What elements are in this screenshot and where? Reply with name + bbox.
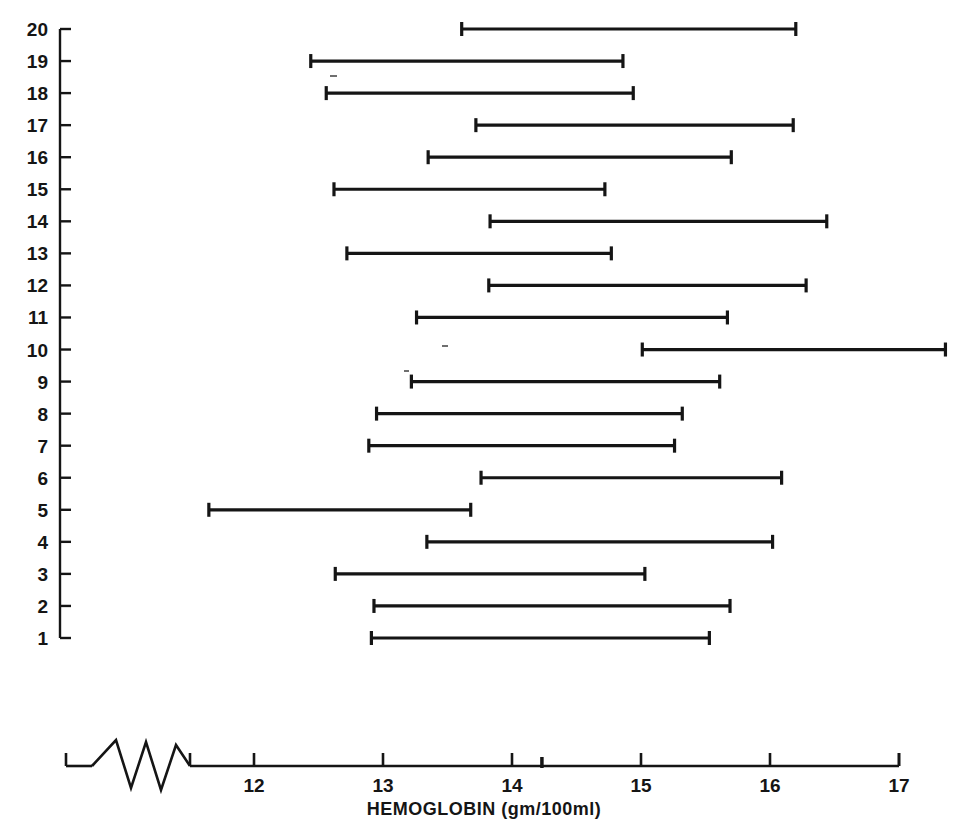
interval-bar bbox=[481, 471, 782, 485]
y-axis-tick-label: 16 bbox=[27, 147, 48, 168]
chart-canvas: 2019181716151413121110987654321 12131415… bbox=[0, 0, 968, 828]
interval-bar bbox=[489, 278, 806, 292]
x-axis-tick-label: 14 bbox=[501, 775, 523, 796]
print-speck-group bbox=[330, 75, 448, 372]
interval-bar bbox=[374, 599, 730, 613]
interval-bar bbox=[642, 343, 945, 357]
print-speck bbox=[404, 370, 409, 372]
y-axis-tick-label: 13 bbox=[27, 243, 48, 264]
axis-break-zigzag-icon bbox=[92, 740, 190, 790]
interval-bar bbox=[411, 375, 719, 389]
y-axis-tick-label: 10 bbox=[27, 340, 48, 361]
print-speck bbox=[442, 345, 448, 347]
interval-bar bbox=[428, 150, 731, 164]
range-interval-chart: 2019181716151413121110987654321 12131415… bbox=[0, 0, 968, 828]
y-axis-tick-label: 19 bbox=[27, 51, 48, 72]
interval-bar bbox=[377, 407, 683, 421]
y-axis-tick-label: 7 bbox=[37, 436, 48, 457]
y-axis-tick-label: 15 bbox=[27, 179, 49, 200]
y-axis-tick-label: 6 bbox=[37, 468, 48, 489]
y-axis-tick-label: 2 bbox=[37, 596, 48, 617]
interval-bar bbox=[417, 310, 728, 324]
interval-bar bbox=[462, 22, 796, 36]
interval-bar bbox=[369, 439, 675, 453]
y-axis-tick-label: 5 bbox=[37, 500, 48, 521]
x-axis-tick-label: 17 bbox=[888, 775, 909, 796]
y-axis: 2019181716151413121110987654321 bbox=[27, 19, 71, 649]
y-axis-tick-label: 11 bbox=[28, 307, 49, 328]
y-axis-tick-label: 20 bbox=[27, 19, 48, 40]
axis-stray-mark bbox=[540, 757, 544, 768]
y-axis-tick-label: 17 bbox=[27, 115, 48, 136]
x-axis-tick-label: 15 bbox=[630, 775, 652, 796]
interval-bar bbox=[347, 246, 611, 260]
x-axis-title: HEMOGLOBIN (gm/100ml) bbox=[367, 799, 602, 819]
y-axis-tick-label: 4 bbox=[37, 532, 48, 553]
interval-bar bbox=[326, 86, 633, 100]
y-axis-tick-label: 18 bbox=[27, 83, 48, 104]
y-axis-tick-label: 8 bbox=[37, 404, 48, 425]
interval-bar bbox=[371, 631, 709, 645]
print-speck bbox=[330, 75, 337, 77]
interval-bar bbox=[311, 54, 623, 68]
interval-bar bbox=[427, 535, 773, 549]
interval-bar bbox=[209, 503, 471, 517]
y-axis-tick-label: 14 bbox=[27, 211, 49, 232]
y-axis-tick-label: 12 bbox=[27, 275, 48, 296]
x-axis-tick-label: 13 bbox=[372, 775, 393, 796]
interval-bar bbox=[335, 567, 645, 581]
interval-bars bbox=[209, 22, 946, 645]
interval-bar bbox=[476, 118, 793, 132]
interval-bar bbox=[334, 182, 605, 196]
x-axis-tick-label: 12 bbox=[243, 775, 264, 796]
x-axis: 121314151617 bbox=[66, 740, 910, 796]
y-axis-tick-label: 3 bbox=[37, 564, 48, 585]
interval-bar bbox=[490, 214, 827, 228]
x-axis-tick-label: 16 bbox=[759, 775, 780, 796]
y-axis-tick-label: 9 bbox=[37, 372, 48, 393]
y-axis-tick-label: 1 bbox=[37, 628, 48, 649]
